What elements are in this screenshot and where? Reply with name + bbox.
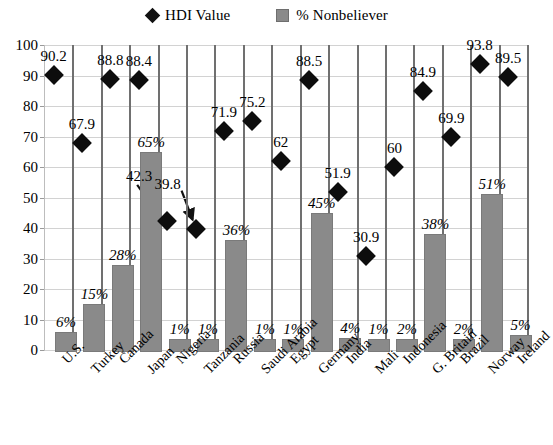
legend-entry-nonbeliever: % Nonbeliever	[276, 7, 388, 24]
bar-value-label: 45%	[308, 196, 336, 211]
category-separator	[271, 45, 273, 350]
legend-label-hdi: HDI Value	[165, 7, 230, 24]
hdi-value-label: 89.5	[495, 51, 521, 66]
category-separator	[300, 45, 302, 350]
y-tick-label: 0	[2, 342, 38, 359]
hdi-value-label: 69.9	[438, 111, 464, 126]
bar-value-label: 15%	[81, 287, 109, 302]
category-separator	[385, 45, 387, 350]
gridline	[45, 106, 528, 107]
bar-value-label: 5%	[511, 318, 531, 333]
category-separator	[357, 45, 359, 350]
y-tick-label: 90	[2, 68, 38, 85]
chart-legend: HDI Value % Nonbeliever	[0, 2, 535, 28]
y-tick-label: 60	[2, 159, 38, 176]
hdi-value-label: 90.2	[40, 49, 66, 64]
y-tick-label: 80	[2, 98, 38, 115]
y-tick-label: 70	[2, 129, 38, 146]
hdi-value-label: 71.9	[211, 105, 237, 120]
category-separator	[214, 45, 216, 350]
hdi-marker	[470, 54, 490, 74]
hdi-value-label: 60	[387, 141, 402, 156]
hdi-value-label: 88.8	[97, 53, 123, 68]
gridline	[45, 167, 528, 168]
hdi-value-label: 93.8	[467, 38, 493, 53]
y-tick-label: 50	[2, 190, 38, 207]
bar-value-label: 1%	[369, 322, 389, 337]
hdi-value-label: 67.9	[69, 117, 95, 132]
bar-value-label: 6%	[56, 315, 76, 330]
x-axis-labels: U.S.TurkeyCanadaJapanNigeriaTanzaniaRuss…	[45, 352, 528, 445]
hdi-marker	[186, 219, 206, 239]
category-separator	[72, 45, 74, 350]
bar-value-label: 36%	[223, 223, 251, 238]
hdi-marker	[385, 157, 405, 177]
gridline	[45, 198, 528, 199]
bar-nonbeliever	[481, 194, 503, 352]
bar-nonbeliever	[83, 304, 105, 352]
y-tick-label: 30	[2, 251, 38, 268]
plot-area: 6%15%28%65%1%1%36%1%1%45%4%1%2%38%2%51%5…	[45, 45, 528, 351]
legend-label-nonbeliever: % Nonbeliever	[296, 7, 388, 24]
hdi-marker	[129, 70, 149, 90]
hdi-value-label: 51.9	[325, 166, 351, 181]
hdi-marker	[356, 246, 376, 266]
y-axis-labels: 1009080706050403020100	[0, 0, 44, 445]
hdi-marker	[100, 69, 120, 89]
y-tick-label: 100	[2, 37, 38, 54]
category-separator	[527, 45, 529, 350]
bar-value-label: 1%	[170, 322, 190, 337]
gridline	[45, 228, 528, 229]
hdi-marker	[242, 111, 262, 131]
bar-value-label: 2%	[397, 322, 417, 337]
hdi-marker	[299, 70, 319, 90]
hdi-marker	[214, 121, 234, 141]
hdi-value-label: 88.4	[126, 54, 152, 69]
bar-value-label: 38%	[422, 217, 450, 232]
hdi-value-label: 75.2	[239, 95, 265, 110]
square-marker-icon	[276, 9, 289, 22]
y-tick-label: 40	[2, 220, 38, 237]
legend-entry-hdi: HDI Value	[147, 7, 230, 24]
category-separator	[186, 45, 188, 350]
y-tick-label: 20	[2, 281, 38, 298]
hdi-value-label: 39.8	[154, 177, 180, 192]
bar-value-label: 65%	[138, 135, 166, 150]
hdi-marker	[441, 127, 461, 147]
diamond-marker-icon	[145, 7, 161, 23]
hdi-value-label: 88.5	[296, 54, 322, 69]
hdi-value-label: 30.9	[353, 230, 379, 245]
hdi-marker	[44, 65, 64, 85]
bar-value-label: 51%	[478, 177, 506, 192]
hdi-marker	[498, 67, 518, 87]
x-tick-label: Mali	[372, 347, 402, 377]
y-tick-label: 10	[2, 312, 38, 329]
category-separator	[470, 45, 472, 350]
bar-value-label: 28%	[109, 248, 137, 263]
hdi-marker	[413, 81, 433, 101]
gridline	[45, 45, 528, 46]
hdi-value-label: 62	[273, 135, 288, 150]
hdi-value-label: 84.9	[410, 65, 436, 80]
hdi-value-label: 42.3	[126, 169, 152, 184]
